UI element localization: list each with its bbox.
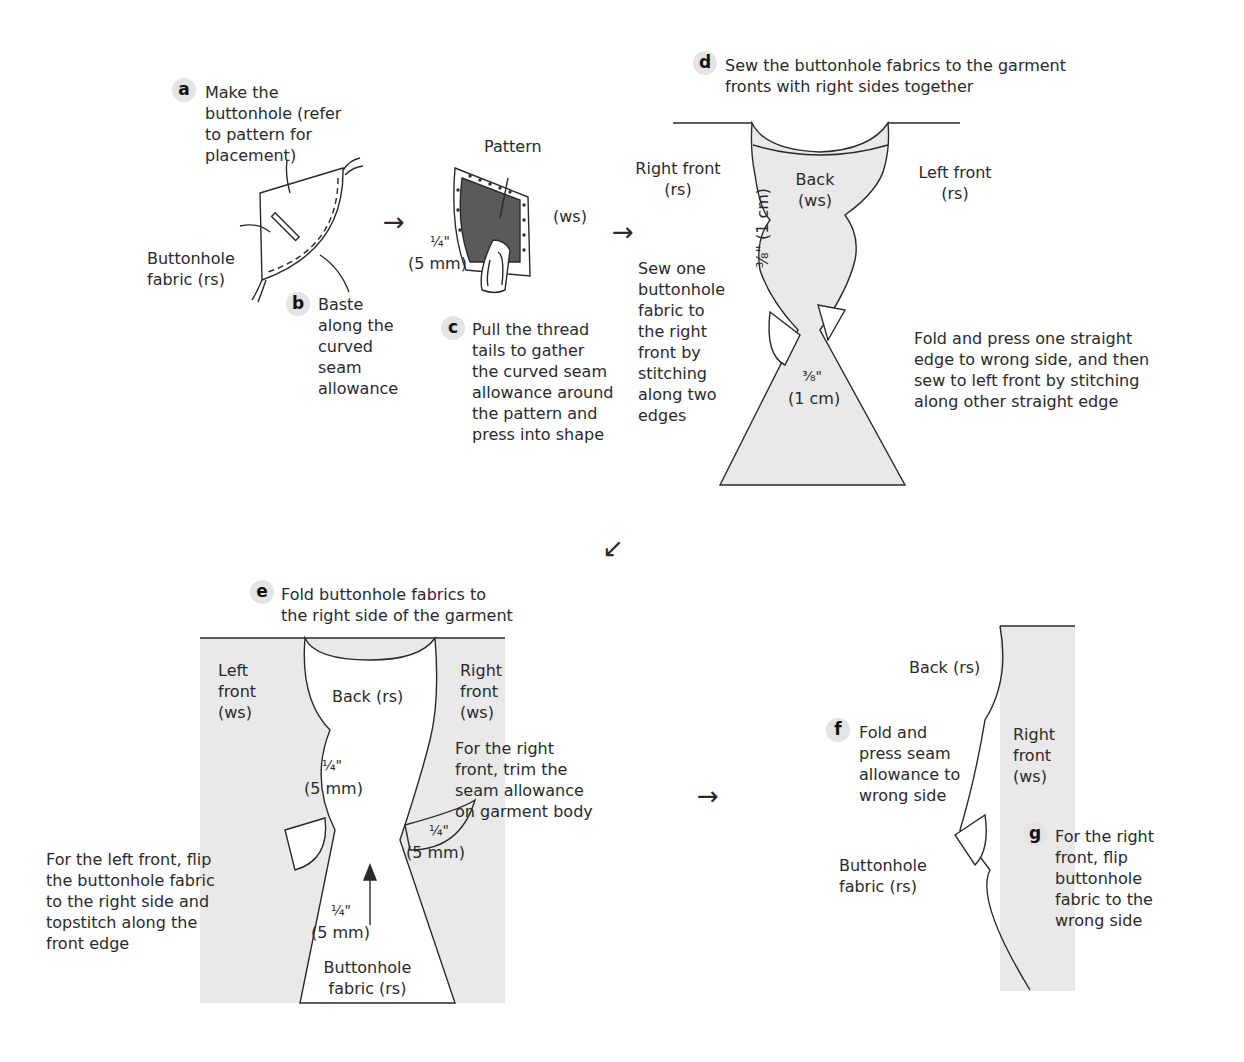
back-rs-label: Back (rs) bbox=[909, 657, 980, 678]
ws-label: (ws) bbox=[553, 206, 587, 227]
step-a-text: Make the buttonhole (refer to pattern fo… bbox=[205, 82, 341, 166]
right-front-rs-label: Right front (rs) bbox=[628, 158, 728, 200]
five-mm-label: (5 mm) bbox=[408, 253, 467, 274]
left-front-ws-label: Left front (ws) bbox=[218, 660, 256, 723]
three-eighth-label: ⅜" bbox=[802, 368, 822, 385]
step-badge-a: a bbox=[172, 78, 196, 102]
fold-press-note: Fold and press one straight edge to wron… bbox=[914, 328, 1149, 412]
garment-f-illustration bbox=[955, 626, 1075, 991]
left-front-flip-note: For the left front, flip the buttonhole … bbox=[46, 849, 215, 954]
pattern-label: Pattern bbox=[484, 136, 542, 157]
buttonhole-fabric-label: Buttonhole fabric (rs) bbox=[147, 248, 235, 290]
quarter-inch-label: ¼" bbox=[429, 822, 449, 839]
arrow-right-icon: → bbox=[612, 222, 634, 243]
buttonhole-fabric-illustration bbox=[240, 158, 363, 302]
step-e-text: Fold buttonhole fabrics to the right sid… bbox=[281, 584, 513, 626]
arrow-right-icon: → bbox=[697, 786, 719, 807]
step-badge-e: e bbox=[250, 580, 274, 604]
step-badge-c: c bbox=[441, 316, 465, 340]
quarter-inch-label: ¼" bbox=[322, 757, 342, 774]
step-d-text: Sew the buttonhole fabrics to the garmen… bbox=[725, 55, 1066, 97]
step-badge-d: d bbox=[693, 51, 717, 75]
step-g-text: For the right front, flip buttonhole fab… bbox=[1055, 826, 1154, 931]
quarter-inch-label: ¼" bbox=[430, 233, 450, 250]
arrow-down-left-icon: ↙ bbox=[602, 538, 624, 559]
right-front-ws-label: Right front (ws) bbox=[460, 660, 502, 723]
buttonhole-fabric-label: Buttonhole fabric (rs) bbox=[310, 957, 425, 999]
back-ws-label: Back (ws) bbox=[780, 169, 850, 211]
arrow-right-icon: → bbox=[383, 212, 405, 233]
seam-allowance-vertical-label: ⅜" (1 cm) bbox=[752, 168, 773, 268]
step-b-text: Baste along the curved seam allowance bbox=[318, 294, 398, 399]
five-mm-label: (5 mm) bbox=[406, 842, 465, 863]
five-mm-label: (5 mm) bbox=[304, 778, 363, 799]
trim-note: For the right front, trim the seam allow… bbox=[455, 738, 593, 822]
one-cm-label: (1 cm) bbox=[788, 388, 840, 409]
quarter-inch-label: ¼" bbox=[331, 902, 351, 919]
step-badge-g: g bbox=[1023, 822, 1047, 846]
step-badge-b: b bbox=[286, 292, 310, 316]
step-c-text: Pull the thread tails to gather the curv… bbox=[472, 319, 614, 445]
left-front-rs-label: Left front (rs) bbox=[905, 162, 1005, 204]
step-badge-f: f bbox=[826, 718, 850, 742]
back-rs-label: Back (rs) bbox=[332, 686, 403, 707]
right-front-ws-label: Right front (ws) bbox=[1013, 724, 1055, 787]
buttonhole-fabric-label: Buttonhole fabric (rs) bbox=[839, 855, 927, 897]
step-f-text: Fold and press seam allowance to wrong s… bbox=[859, 722, 960, 806]
five-mm-label: (5 mm) bbox=[311, 922, 370, 943]
sew-one-note: Sew one buttonhole fabric to the right f… bbox=[638, 258, 725, 426]
